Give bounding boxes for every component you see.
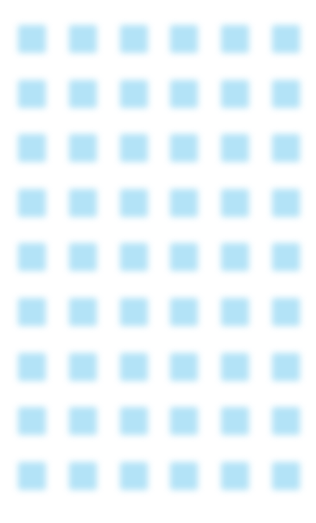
grid-cell xyxy=(69,25,97,53)
grid-cell xyxy=(221,243,249,271)
grid-cell-fill xyxy=(272,243,300,271)
pattern-canvas xyxy=(0,0,316,523)
grid-cell-fill xyxy=(69,134,97,162)
grid-cell-fill xyxy=(69,298,97,326)
grid-cell xyxy=(120,407,148,435)
grid-cell xyxy=(272,25,300,53)
grid-cell-fill xyxy=(120,134,148,162)
grid-cell xyxy=(120,189,148,217)
grid-cell xyxy=(18,353,46,381)
grid-cell xyxy=(18,462,46,490)
grid-cell-fill xyxy=(120,298,148,326)
grid-cell xyxy=(120,298,148,326)
grid-cell-fill xyxy=(272,462,300,490)
grid-cell-fill xyxy=(69,462,97,490)
grid-cell-fill xyxy=(69,353,97,381)
grid-cell-fill xyxy=(272,134,300,162)
grid-cell xyxy=(272,462,300,490)
grid-cell xyxy=(18,25,46,53)
grid-cell xyxy=(221,189,249,217)
grid-cell xyxy=(69,298,97,326)
grid-cell-fill xyxy=(221,462,249,490)
grid-cell xyxy=(272,243,300,271)
grid-cell xyxy=(170,462,198,490)
grid-cell xyxy=(170,189,198,217)
grid-cell-fill xyxy=(120,407,148,435)
grid-cell-fill xyxy=(221,25,249,53)
grid-cell-fill xyxy=(18,243,46,271)
grid-cell-fill xyxy=(120,189,148,217)
grid-cell-fill xyxy=(272,353,300,381)
grid-cell xyxy=(69,407,97,435)
grid-cell-fill xyxy=(221,353,249,381)
grid-cell-fill xyxy=(120,80,148,108)
grid-cell-fill xyxy=(69,407,97,435)
grid-cell xyxy=(69,243,97,271)
grid-cell-fill xyxy=(272,407,300,435)
grid-cell xyxy=(18,189,46,217)
grid-cell-fill xyxy=(170,243,198,271)
grid-cell-fill xyxy=(272,25,300,53)
grid-cell xyxy=(120,243,148,271)
grid-cell-fill xyxy=(170,298,198,326)
grid-cell xyxy=(69,134,97,162)
grid-cell-fill xyxy=(18,25,46,53)
grid-cell-fill xyxy=(221,407,249,435)
grid-cell xyxy=(170,353,198,381)
grid-cell-fill xyxy=(170,80,198,108)
grid-cell xyxy=(120,134,148,162)
grid-cell xyxy=(120,25,148,53)
grid-cell xyxy=(170,298,198,326)
grid-cell-fill xyxy=(18,134,46,162)
grid-cell xyxy=(272,80,300,108)
grid-cell xyxy=(221,134,249,162)
grid-cell xyxy=(272,353,300,381)
grid-cell-fill xyxy=(18,189,46,217)
grid-cell-fill xyxy=(221,134,249,162)
grid-cell xyxy=(272,298,300,326)
grid-cell-fill xyxy=(170,407,198,435)
grid-cell-fill xyxy=(170,462,198,490)
grid-cell-fill xyxy=(272,189,300,217)
grid-cell xyxy=(170,80,198,108)
grid-cell xyxy=(221,298,249,326)
grid-cell xyxy=(18,243,46,271)
grid-cell xyxy=(170,25,198,53)
grid-cell-fill xyxy=(69,243,97,271)
grid-cell-fill xyxy=(120,25,148,53)
grid-cell xyxy=(221,353,249,381)
grid-cell-fill xyxy=(221,298,249,326)
grid-cell xyxy=(272,189,300,217)
grid-cell-fill xyxy=(170,134,198,162)
grid-cell xyxy=(69,353,97,381)
grid-cell xyxy=(170,407,198,435)
grid-cell xyxy=(69,462,97,490)
grid-cell-fill xyxy=(120,243,148,271)
grid-cell xyxy=(221,25,249,53)
grid-cell-fill xyxy=(18,407,46,435)
grid-cell-fill xyxy=(272,298,300,326)
square-grid xyxy=(0,0,316,523)
grid-cell-fill xyxy=(18,298,46,326)
grid-cell xyxy=(170,134,198,162)
grid-cell xyxy=(221,462,249,490)
grid-cell xyxy=(221,80,249,108)
grid-cell-fill xyxy=(120,462,148,490)
grid-cell xyxy=(120,353,148,381)
grid-cell-fill xyxy=(69,80,97,108)
grid-cell-fill xyxy=(18,462,46,490)
grid-cell xyxy=(272,134,300,162)
grid-cell xyxy=(69,80,97,108)
grid-cell xyxy=(18,407,46,435)
grid-cell xyxy=(18,134,46,162)
grid-cell-fill xyxy=(170,189,198,217)
grid-cell xyxy=(18,80,46,108)
grid-cell-fill xyxy=(170,25,198,53)
grid-cell xyxy=(120,80,148,108)
grid-cell-fill xyxy=(170,353,198,381)
grid-cell xyxy=(120,462,148,490)
grid-cell-fill xyxy=(69,25,97,53)
grid-cell-fill xyxy=(272,80,300,108)
grid-cell xyxy=(170,243,198,271)
grid-cell-fill xyxy=(18,353,46,381)
